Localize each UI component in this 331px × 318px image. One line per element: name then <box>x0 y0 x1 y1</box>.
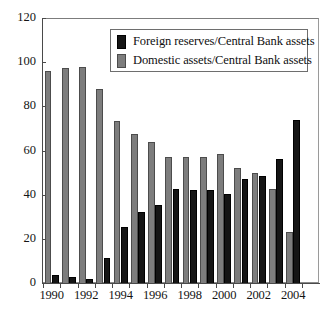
bar-foreign-reserves <box>86 279 93 283</box>
x-axis-tick-label: 1996 <box>143 288 167 303</box>
legend-swatch-icon-black <box>117 35 126 49</box>
bar-foreign-reserves <box>190 190 197 283</box>
bar-domestic-assets <box>269 189 276 283</box>
x-axis-tick-label: 2004 <box>281 288 305 303</box>
x-axis-tick <box>129 283 130 288</box>
x-axis-tick-label: 1994 <box>109 288 133 303</box>
legend-label: Foreign reserves/Central Bank assets <box>133 34 314 49</box>
bar-foreign-reserves <box>224 194 231 283</box>
x-axis-tick <box>267 283 268 288</box>
x-axis-tick <box>164 283 165 288</box>
bar-chart: 020406080100120 199019921994199619982000… <box>0 0 331 318</box>
legend-entry-domestic-assets: Domestic assets/Central Bank assets <box>117 52 312 69</box>
legend-label: Domestic assets/Central Bank assets <box>133 53 312 68</box>
bar-foreign-reserves <box>259 176 266 283</box>
bar-foreign-reserves <box>173 189 180 283</box>
x-axis-tick-label: 1998 <box>178 288 202 303</box>
bar-foreign-reserves <box>69 277 76 283</box>
bar-domestic-assets <box>45 71 52 283</box>
figure-caption <box>4 309 331 318</box>
legend-entry-foreign-reserves: Foreign reserves/Central Bank assets <box>117 33 314 50</box>
bar-domestic-assets <box>286 232 293 283</box>
x-axis-tick-label: 1992 <box>74 288 98 303</box>
bar-foreign-reserves <box>293 120 300 283</box>
legend-swatch-icon-gray <box>117 54 126 68</box>
bar-domestic-assets <box>131 134 138 283</box>
x-axis-tick <box>233 283 234 288</box>
x-axis-tick <box>198 283 199 288</box>
x-axis-tick <box>60 283 61 288</box>
x-axis-tick-label: 2002 <box>247 288 271 303</box>
bar-group <box>60 18 77 283</box>
x-axis-tick <box>302 283 303 288</box>
bar-domestic-assets <box>96 89 103 283</box>
bar-foreign-reserves <box>138 212 145 283</box>
bar-foreign-reserves <box>104 258 111 283</box>
bar-domestic-assets <box>62 68 69 283</box>
bar-foreign-reserves <box>242 179 249 283</box>
bar-foreign-reserves <box>121 227 128 283</box>
bar-foreign-reserves <box>207 190 214 283</box>
bar-domestic-assets <box>234 168 241 283</box>
x-axis-tick-label: 2000 <box>212 288 236 303</box>
bar-domestic-assets <box>79 67 86 283</box>
x-axis-tick <box>95 283 96 288</box>
chart-legend: Foreign reserves/Central Bank assets Dom… <box>110 29 308 72</box>
bar-group <box>78 18 95 283</box>
bar-domestic-assets <box>200 157 207 283</box>
bar-foreign-reserves <box>155 205 162 283</box>
bar-domestic-assets <box>252 173 259 283</box>
bar-foreign-reserves <box>276 159 283 283</box>
bar-domestic-assets <box>148 142 155 283</box>
bar-domestic-assets <box>183 157 190 283</box>
bar-domestic-assets <box>114 121 121 283</box>
bar-domestic-assets <box>165 157 172 283</box>
x-axis-tick-label: 1990 <box>40 288 64 303</box>
bar-foreign-reserves <box>52 275 59 283</box>
bar-domestic-assets <box>217 154 224 283</box>
bar-group <box>43 18 60 283</box>
